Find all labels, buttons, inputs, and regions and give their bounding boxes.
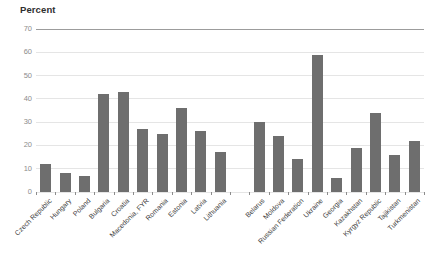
x-axis-tick — [385, 192, 386, 195]
x-axis-tick — [346, 192, 347, 195]
bar-georgia — [331, 178, 342, 192]
bar-latvia — [195, 131, 206, 192]
x-axis-tick — [133, 192, 134, 195]
x-axis-tick — [308, 192, 309, 195]
x-axis-tick — [424, 192, 425, 195]
bar-chart: Percent 010203040506070Czech RepublicHun… — [0, 0, 440, 267]
x-axis-tick — [152, 192, 153, 195]
y-tick-label: 20 — [8, 140, 32, 150]
y-tick-label: 50 — [8, 71, 32, 81]
x-axis-tick — [327, 192, 328, 195]
bar-belarus — [254, 122, 265, 192]
x-axis-tick — [230, 192, 231, 195]
x-axis-tick — [211, 192, 212, 195]
x-tick-label: Ukraine — [302, 197, 325, 220]
y-tick-label: 40 — [8, 94, 32, 104]
y-tick-label: 60 — [8, 47, 32, 57]
gridline — [36, 122, 424, 123]
plot-area — [36, 29, 424, 192]
bar-kyrgyz-republic — [370, 113, 381, 192]
x-axis-tick — [55, 192, 56, 195]
bar-romania — [157, 134, 168, 192]
gridline — [36, 75, 424, 76]
bar-ukraine — [312, 55, 323, 192]
bar-lithuania — [215, 152, 226, 192]
gridline-top — [36, 29, 424, 30]
gridline — [36, 98, 424, 99]
y-tick-label: 10 — [8, 164, 32, 174]
bar-russian-federation — [292, 159, 303, 192]
y-axis-unit-label: Percent — [20, 4, 56, 15]
y-tick-label: 0 — [8, 187, 32, 197]
x-axis-tick — [172, 192, 173, 195]
gridline — [36, 168, 424, 169]
x-axis-tick — [405, 192, 406, 195]
x-axis-tick — [114, 192, 115, 195]
bar-kazakhstan — [351, 148, 362, 192]
x-tick-label: Estonia — [167, 197, 189, 219]
x-tick-label: Czech Republic — [13, 197, 53, 237]
bar-hungary — [60, 173, 71, 192]
bar-moldova — [273, 136, 284, 192]
x-axis-tick — [94, 192, 95, 195]
x-axis-tick — [36, 192, 37, 195]
bar-bulgaria — [98, 94, 109, 192]
y-tick-label: 70 — [8, 24, 32, 34]
x-axis-tick — [249, 192, 250, 195]
gridline — [36, 52, 424, 53]
gridline — [36, 145, 424, 146]
y-tick-label: 30 — [8, 117, 32, 127]
x-axis-tick — [191, 192, 192, 195]
bar-tajikistan — [389, 155, 400, 192]
x-axis-tick — [75, 192, 76, 195]
bar-poland — [79, 176, 90, 192]
x-axis-tick — [269, 192, 270, 195]
bar-macedonia-fyr — [137, 129, 148, 192]
bar-turkmenistan — [409, 141, 420, 192]
x-axis-tick — [366, 192, 367, 195]
bar-czech-republic — [40, 164, 51, 192]
bar-estonia — [176, 108, 187, 192]
bar-croatia — [118, 92, 129, 192]
x-axis-tick — [288, 192, 289, 195]
